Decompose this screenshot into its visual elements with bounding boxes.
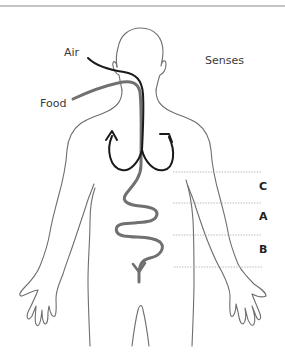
label-air: Air — [64, 47, 79, 59]
label-food: Food — [40, 98, 66, 110]
zone-label-c: C — [259, 181, 267, 193]
zone-label-a: A — [259, 211, 268, 223]
zone-label-b: B — [259, 244, 267, 256]
label-senses: Senses — [205, 55, 244, 67]
zone-dividers — [173, 172, 262, 267]
body-outline — [20, 28, 266, 346]
food-path — [73, 82, 162, 282]
